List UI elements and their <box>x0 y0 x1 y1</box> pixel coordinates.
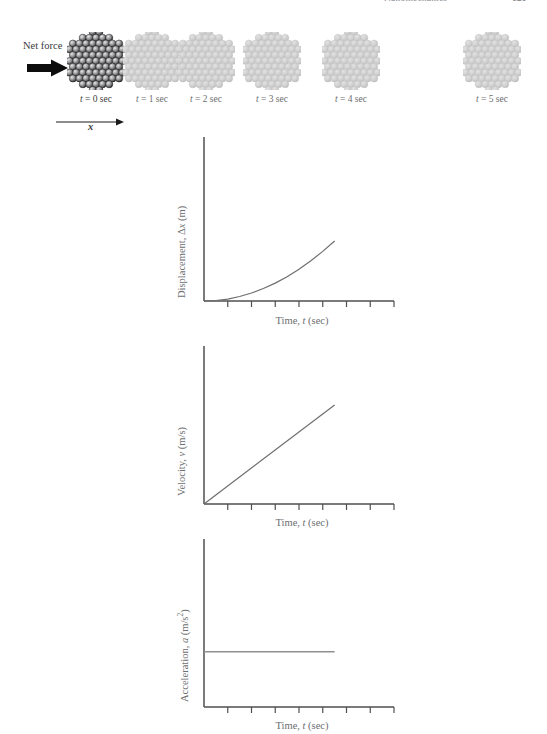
time-label-t3: t = 3 sec <box>242 94 302 104</box>
particle-cluster-t0 <box>67 32 125 90</box>
y-axis-label-velocity: Velocity, v (m/s) <box>176 427 187 496</box>
displacement-curve <box>204 241 335 301</box>
net-force-label: Net force <box>23 40 62 51</box>
y-axis-label-acceleration: Acceleration, a (m/s2) <box>176 609 190 702</box>
x-axis-label-time-3: Time, t (sec) <box>237 720 367 731</box>
y-axis-label-displacement: Displacement, Δx (m) <box>176 206 187 298</box>
time-label-t5: t = 5 sec <box>462 94 522 104</box>
particle-sequence-panel: Net force t = 0 sect = 1 sect = 2 sect =… <box>0 0 547 135</box>
chart-acceleration: Acceleration, a (m/s2) Time, t (sec) <box>182 537 402 715</box>
x-direction-label: x <box>88 121 93 132</box>
x-axis-ticks <box>228 301 394 307</box>
particle-cluster-t5 <box>463 32 521 90</box>
x-axis-label-time-2: Time, t (sec) <box>237 517 367 528</box>
x-axis-ticks <box>228 707 394 713</box>
chart-displacement: Displacement, Δx (m) Time, t (sec) <box>182 135 402 315</box>
particle-cluster-t3 <box>243 32 301 90</box>
acceleration-plot-svg <box>182 537 402 715</box>
particle-cluster-t2 <box>177 32 235 90</box>
x-axis-ticks <box>228 504 394 510</box>
x-axis-label-time-1: Time, t (sec) <box>237 315 367 326</box>
time-label-t2: t = 2 sec <box>176 94 236 104</box>
chart-velocity: Velocity, v (m/s) Time, t (sec) <box>182 344 402 512</box>
time-label-t1: t = 1 sec <box>122 94 182 104</box>
time-label-t0: t = 0 sec <box>66 94 126 104</box>
particle-cluster-t1 <box>123 32 181 90</box>
time-label-t4: t = 4 sec <box>321 94 381 104</box>
particle-cluster-t4 <box>322 32 380 90</box>
net-force-arrow-icon <box>27 58 69 82</box>
velocity-line <box>204 405 335 504</box>
displacement-plot-svg <box>182 135 402 315</box>
velocity-plot-svg <box>182 344 402 512</box>
